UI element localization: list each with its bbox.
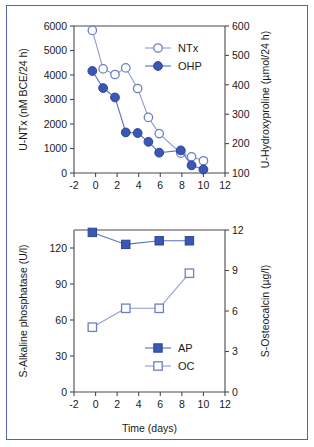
chart-panel-bottom: 0306090120036912-2024681012S-Alkaline ph…: [7, 218, 309, 440]
y-tick-label-right: 400: [232, 79, 250, 91]
data-point-marker: [88, 67, 97, 76]
x-axis-title: Time (days): [122, 422, 177, 434]
data-point-marker: [111, 93, 120, 102]
data-point-marker: [88, 26, 96, 34]
legend-label: OC: [178, 360, 195, 372]
series-line: [92, 273, 189, 327]
x-tick-label: 12: [219, 179, 231, 191]
y-tick-label-left: 0: [61, 386, 67, 398]
legend: APOC: [145, 342, 195, 372]
y-tick-label-right: 0: [232, 386, 238, 398]
y-tick-label-right: 9: [232, 264, 238, 276]
y-tick-label-left: 60: [55, 314, 67, 326]
x-tick-label: 6: [157, 179, 163, 191]
data-point-marker: [187, 153, 195, 161]
y-axis-right: 100200300400500600: [225, 20, 250, 179]
y-tick-label-right: 300: [232, 108, 250, 120]
data-point-marker: [187, 161, 196, 170]
legend-marker: [154, 344, 162, 352]
series-oc: [88, 269, 193, 331]
data-point-marker: [99, 84, 108, 93]
data-point-marker: [122, 304, 130, 312]
y-axis-left: 0306090120: [49, 242, 74, 398]
data-point-marker: [176, 146, 185, 155]
data-point-marker: [185, 237, 193, 245]
x-tick-label: 10: [198, 179, 210, 191]
x-tick-label: 8: [179, 179, 185, 191]
axis-spines: [74, 230, 225, 392]
data-point-marker: [155, 148, 164, 157]
legend-label: NTx: [178, 42, 199, 54]
y-tick-label-left: 5000: [44, 44, 68, 56]
y-axis-title-right: U-Hydroxyproline (µmol/24 h): [259, 31, 271, 168]
data-point-marker: [122, 240, 130, 248]
y-tick-label-right: 3: [232, 345, 238, 357]
y-tick-label-left: 3000: [44, 93, 68, 105]
y-tick-label-left: 4000: [44, 69, 68, 81]
data-point-marker: [144, 113, 152, 121]
x-tick-label: 0: [93, 179, 99, 191]
y-axis-title-left: U-NTx (nM BCE/24 h): [17, 48, 29, 151]
legend-label: OHP: [178, 60, 202, 72]
x-tick-label: 2: [114, 398, 120, 410]
y-axis-title-left: S-Alkaline phosphatase (U/l): [17, 244, 29, 377]
y-axis-title-right: S-Osteocalcin (µg/l): [259, 265, 271, 357]
data-point-marker: [155, 304, 163, 312]
chart-panel-top: 0100020003000400050006000100200300400500…: [7, 10, 309, 218]
x-tick-label: -2: [69, 179, 78, 191]
data-point-marker: [133, 84, 141, 92]
y-axis-left: 0100020003000400050006000: [44, 20, 74, 179]
y-tick-label-left: 120: [49, 242, 67, 254]
y-tick-label-left: 2000: [44, 118, 68, 130]
x-tick-label: 6: [157, 398, 163, 410]
x-tick-label: -2: [69, 398, 78, 410]
x-tick-label: 12: [219, 398, 231, 410]
y-axis-right: 036912: [225, 224, 244, 398]
data-point-marker: [185, 269, 193, 277]
y-tick-label-right: 100: [232, 167, 250, 179]
y-tick-label-left: 1000: [44, 142, 68, 154]
y-tick-label-right: 200: [232, 137, 250, 149]
data-point-marker: [122, 64, 130, 72]
y-tick-label-right: 500: [232, 49, 250, 61]
legend-marker: [154, 362, 162, 370]
bottom-chart-svg: 0306090120036912-2024681012S-Alkaline ph…: [7, 218, 309, 440]
figure-frame: 0100020003000400050006000100200300400500…: [6, 5, 308, 440]
x-tick-label: 8: [179, 398, 185, 410]
x-axis: -2024681012: [69, 392, 231, 410]
data-point-marker: [155, 237, 163, 245]
x-axis: -2024681012: [69, 173, 231, 191]
y-tick-label-right: 12: [232, 224, 244, 236]
y-tick-label-left: 0: [61, 167, 67, 179]
y-tick-label-right: 600: [232, 20, 250, 32]
y-tick-label-left: 6000: [44, 20, 68, 32]
y-tick-label-left: 30: [55, 350, 67, 362]
series-ap: [88, 228, 193, 248]
data-point-marker: [199, 165, 208, 174]
data-point-marker: [199, 157, 207, 165]
x-tick-label: 2: [114, 179, 120, 191]
data-point-marker: [155, 129, 163, 137]
y-tick-label-left: 90: [55, 278, 67, 290]
x-tick-label: 0: [93, 398, 99, 410]
legend-label: AP: [178, 342, 193, 354]
data-point-marker: [111, 70, 119, 78]
data-point-marker: [88, 228, 96, 236]
series-line: [92, 232, 189, 244]
data-point-marker: [133, 129, 142, 138]
data-point-marker: [99, 65, 107, 73]
data-point-marker: [88, 323, 96, 331]
top-chart-svg: 0100020003000400050006000100200300400500…: [7, 10, 309, 218]
x-tick-label: 10: [198, 398, 210, 410]
legend-marker: [154, 44, 162, 52]
data-point-marker: [144, 137, 153, 146]
legend: NTxOHP: [145, 42, 202, 72]
y-tick-label-right: 6: [232, 305, 238, 317]
x-tick-label: 4: [136, 179, 142, 191]
legend-marker: [154, 62, 163, 71]
figure-container: 0100020003000400050006000100200300400500…: [0, 0, 314, 447]
x-tick-label: 4: [136, 398, 142, 410]
data-point-marker: [121, 128, 130, 137]
